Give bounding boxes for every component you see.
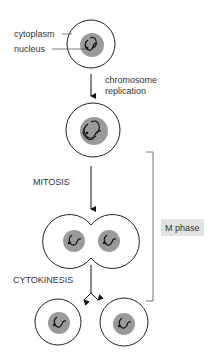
daughter-cell-right [100, 298, 148, 346]
centromere [86, 132, 89, 135]
cell-membrane [43, 215, 140, 269]
interphase-cell [67, 20, 115, 68]
centromere [68, 242, 70, 244]
cytokinesis-arrow-right [91, 293, 98, 300]
centromere [53, 324, 55, 326]
daughter-cell-left [35, 299, 81, 345]
nucleus [80, 33, 104, 57]
centromere [103, 242, 105, 244]
cytokinesis-label: CYTOKINESIS [13, 275, 73, 285]
nucleus [113, 313, 135, 335]
cytokinesis-arrow-left [84, 293, 91, 300]
nucleus-label: nucleus [14, 44, 46, 54]
mitosis-label: MITOSIS [33, 177, 70, 187]
cytoplasm-label: cytoplasm [14, 29, 55, 39]
nucleus [48, 312, 70, 334]
m-phase-label: M phase [165, 223, 200, 233]
replication-label-line1: chromosome [105, 75, 157, 85]
centromere [118, 325, 120, 327]
replication-label-line2: replication [105, 86, 146, 96]
nucleus-left [63, 230, 85, 252]
dividing-cell [43, 215, 140, 269]
cell-division-diagram: cytoplasm nucleus chromosome replication… [0, 0, 212, 361]
nucleus-right [98, 230, 120, 252]
replicated-cell [66, 103, 120, 157]
m-phase-bracket [146, 152, 153, 301]
